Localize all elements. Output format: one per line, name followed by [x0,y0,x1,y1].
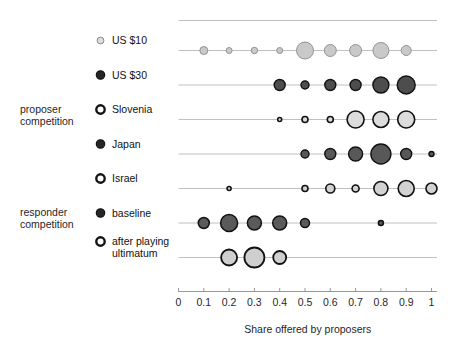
bubble [350,45,362,57]
bubble [277,48,283,54]
legend-entry-slovenia: Slovenia [96,103,152,115]
bubble [302,117,308,123]
legend-label-line2: ultimatum [112,247,158,259]
x-axis-title: Share offered by proposers [244,323,371,335]
bubble [221,215,238,232]
bubble [221,250,237,266]
bubble [398,111,415,128]
bubble [352,185,359,192]
bubble [397,76,415,94]
legend-marker-icon [96,71,104,79]
series-after-playing-ultimatum [221,248,286,268]
legend-marker-icon [97,37,104,44]
legend-entry-japan: Japan [96,138,140,150]
bubble [278,118,282,122]
legend-marker-icon [96,140,104,148]
bubble [426,183,437,194]
bubble [251,47,258,54]
bubble [198,218,209,229]
x-tick-label-4: 0.4 [272,296,287,308]
legend-label: US $30 [112,69,147,81]
bubble [301,219,310,228]
bubble [398,181,414,197]
bubble [349,147,363,161]
bubble [227,187,231,191]
x-tick-label-10: 1 [429,296,435,308]
bubble [247,216,261,230]
bubble [373,112,389,128]
bubble [200,47,208,55]
bubble [273,216,287,230]
bubble [374,182,388,196]
bubble [373,77,389,93]
bubble [301,150,309,158]
x-axis-title-layer: Share offered by proposers [244,323,371,335]
legend-entry-us-30: US $30 [96,69,147,81]
x-tick-label-5: 0.5 [298,296,313,308]
chart-canvas: proposercompetitionrespondercompetition … [0,0,460,350]
x-tick-label-1: 0.1 [196,296,211,308]
legend-marker-icon [96,174,104,182]
bubble [324,45,336,57]
x-tick-label-3: 0.3 [247,296,262,308]
legend-entry-israel: Israel [96,172,137,184]
legend-label: Israel [112,172,138,184]
bubble [347,111,364,128]
group-label-layer: proposercompetitionrespondercompetition [20,103,74,230]
bubble [373,43,389,59]
legend-label: Slovenia [112,103,152,115]
x-tick-label-8: 0.8 [374,296,389,308]
series-us-10 [200,42,411,59]
group-label-responder-competition: competition [20,218,74,230]
bubble [325,149,336,160]
bubble [327,117,333,123]
x-axis-layer: 00.10.20.30.40.50.60.70.80.91 [176,288,437,308]
bubble [429,152,434,157]
series-legend-layer: US $10US $30SloveniaJapanIsraelbaselinea… [96,34,169,259]
bubble [350,80,361,91]
bubble-chart-figure: proposercompetitionrespondercompetition … [0,0,460,350]
x-tick-label-6: 0.6 [323,296,338,308]
x-tick-label-7: 0.7 [348,296,363,308]
x-tick-label-2: 0.2 [222,296,237,308]
bubble [302,186,308,192]
legend-entry-after-playing-ultimatum: after playingultimatum [96,235,169,259]
legend-marker-icon [96,105,104,113]
legend-marker-icon [96,237,104,245]
bubble [273,251,286,264]
group-label-proposer-competition: competition [20,115,74,127]
legend-entry-us-10: US $10 [97,34,147,46]
bubble [371,144,391,164]
x-tick-label-0: 0 [176,296,182,308]
bubble [401,149,412,160]
legend-label: after playing [112,235,169,247]
bubble-layer [198,42,437,268]
bubble [226,48,232,54]
bubble [244,248,264,268]
legend-label: baseline [112,207,151,219]
legend-marker-icon [96,209,104,217]
bubble [274,80,285,91]
group-label-responder-competition: responder [20,206,68,218]
bubble [378,221,383,226]
group-label-proposer-competition: proposer [20,103,62,115]
legend-label: Japan [112,138,141,150]
bubble [325,80,336,91]
x-tick-label-9: 0.9 [399,296,414,308]
bubble [326,184,335,193]
bubble [401,46,411,56]
legend-label: US $10 [112,34,147,46]
legend-entry-baseline: baseline [96,207,151,219]
bubble [301,81,309,89]
bubble [297,42,314,59]
